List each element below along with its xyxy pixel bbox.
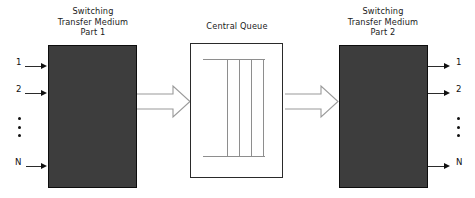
switch-architecture-diagram: Switching Transfer Medium Part 1 1 2 N C… (0, 0, 475, 198)
input-ports-vertical-ellipsis-icon (17, 117, 21, 137)
output-port-arrowhead-n (444, 163, 450, 169)
right-block-title: Switching Transfer Medium Part 2 (338, 6, 428, 38)
switching-transfer-medium-part2-block (339, 45, 428, 188)
queue-to-right-flow-arrow (285, 85, 339, 119)
right-block-title-line2: Transfer Medium (338, 17, 428, 28)
left-block-title-line3: Part 1 (48, 27, 138, 38)
input-port-arrowhead-n (41, 163, 47, 169)
queue-lane-divider-3 (251, 59, 252, 156)
output-port-label-2: 2 (456, 84, 461, 94)
left-block-title-line1: Switching (48, 6, 138, 17)
queue-lane-divider-1 (227, 59, 228, 156)
output-port-label-n: N (456, 157, 462, 167)
output-port-label-1: 1 (456, 57, 461, 67)
central-queue-title: Central Queue (191, 21, 283, 32)
left-block-title-line2: Transfer Medium (48, 17, 138, 28)
queue-bottom-rail (203, 156, 265, 157)
right-block-title-line1: Switching (338, 6, 428, 17)
input-port-arrowhead-1 (41, 63, 47, 69)
output-ports-vertical-ellipsis-icon (456, 117, 460, 137)
queue-top-rail (203, 59, 265, 60)
input-port-label-1: 1 (16, 57, 21, 67)
output-port-arrowhead-1 (444, 63, 450, 69)
queue-lane-divider-2 (239, 59, 240, 156)
left-block-title: Switching Transfer Medium Part 1 (48, 6, 138, 38)
switching-transfer-medium-part1-block (48, 45, 137, 188)
central-queue-box (190, 43, 283, 178)
input-port-label-n: N (15, 157, 21, 167)
input-port-arrowhead-2 (41, 90, 47, 96)
input-port-label-2: 2 (16, 84, 21, 94)
right-block-title-line3: Part 2 (338, 27, 428, 38)
left-to-queue-flow-arrow (137, 85, 191, 119)
output-port-arrowhead-2 (444, 90, 450, 96)
queue-lane-divider-4 (263, 59, 264, 156)
